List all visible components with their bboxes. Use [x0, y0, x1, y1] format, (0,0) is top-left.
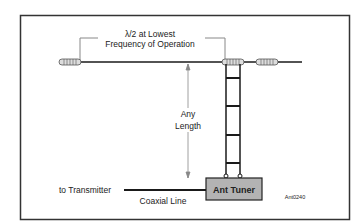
- insulator-icon: [256, 59, 278, 65]
- antenna-diagram: λ/2 at Lowest Frequency of Operation Any…: [0, 0, 363, 223]
- feeder-label-line2: Length: [175, 121, 201, 131]
- insulator-icon: [59, 59, 81, 65]
- feeder-label-line1: Any: [181, 109, 196, 119]
- span-label-line2: Frequency of Operation: [105, 39, 195, 49]
- tuner-label: Ant Tuner: [213, 185, 255, 195]
- transmitter-label: to Transmitter: [59, 185, 111, 195]
- figure-id: Ant0240: [285, 194, 306, 200]
- span-label-line1: λ/2 at Lowest: [125, 29, 176, 39]
- coax-label: Coaxial Line: [140, 196, 187, 206]
